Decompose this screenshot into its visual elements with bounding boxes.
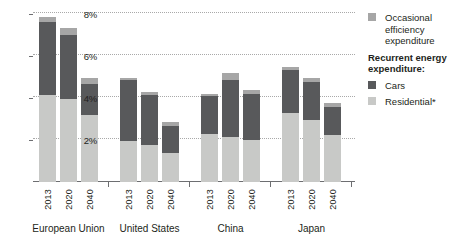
y-axis-tick-label: 6% (71, 51, 97, 62)
x-axis-year-label: 2013 (43, 189, 53, 210)
x-axis-year-label: 2040 (166, 189, 176, 210)
segment-cars (39, 22, 56, 94)
segment-residential (282, 113, 299, 182)
x-axis: 201320202040European Union201320202040Un… (33, 182, 355, 234)
segment-cars (120, 80, 137, 141)
x-axis-group-label: Japan (298, 223, 325, 234)
x-axis-year-label: 2020 (145, 189, 155, 210)
segment-residential (39, 95, 56, 182)
legend-item-residential: Residential* (368, 96, 453, 108)
segment-residential (222, 137, 239, 182)
x-axis-group-label: China (217, 223, 243, 234)
legend-group-title: Recurrent energy expenditure: (368, 52, 453, 75)
x-axis-year-label: 2013 (124, 189, 134, 210)
segment-cars (282, 70, 299, 113)
legend-swatch-occasional-icon (368, 13, 376, 21)
x-axis-year-label: 2020 (307, 189, 317, 210)
segment-occasional (60, 28, 77, 35)
segment-residential (303, 120, 320, 182)
segment-cars (60, 35, 77, 99)
x-axis-year-label: 2020 (226, 189, 236, 210)
x-axis-year-label: 2040 (247, 189, 257, 210)
y-axis-tick-mark (29, 98, 33, 99)
y-axis-tick-label: 2% (71, 135, 97, 146)
legend-swatch-cars-icon (368, 81, 376, 89)
stacked-bar-chart: 2%4%6%8% 201320202040European Union20132… (0, 0, 453, 234)
segment-residential (201, 134, 218, 182)
x-axis-group-label: European Union (32, 223, 104, 234)
x-axis-year-label: 2040 (85, 189, 95, 210)
segment-residential (324, 135, 341, 182)
x-axis-group-tick (351, 182, 352, 187)
bar-china-2013[interactable] (201, 94, 218, 182)
segment-cars (243, 94, 260, 140)
x-axis-year-label: 2013 (286, 189, 296, 210)
segment-residential (81, 115, 98, 182)
legend-label-cars: Cars (385, 80, 453, 92)
y-axis-tick-label: 8% (71, 9, 97, 20)
bar-united-states-2013[interactable] (120, 78, 137, 182)
x-axis-year-label: 2020 (64, 189, 74, 210)
segment-cars (303, 82, 320, 120)
bar-united-states-2040[interactable] (162, 122, 179, 182)
segment-residential (141, 145, 158, 182)
bar-japan-2040[interactable] (324, 103, 341, 182)
y-axis-tick-mark (29, 56, 33, 57)
legend-item-occasional: Occasional efficiency expenditure (368, 12, 453, 47)
bar-european-union-2013[interactable] (39, 17, 56, 182)
segment-occasional (222, 73, 239, 80)
x-axis-group-tick (189, 182, 190, 187)
legend: Occasional efficiency expenditure Recurr… (368, 12, 453, 113)
bar-china-2040[interactable] (243, 90, 260, 182)
x-axis-year-label: 2013 (205, 189, 215, 210)
bar-japan-2013[interactable] (282, 67, 299, 183)
segment-cars (201, 96, 218, 134)
segment-residential (162, 153, 179, 182)
bar-japan-2020[interactable] (303, 78, 320, 182)
legend-item-cars: Cars (368, 80, 453, 92)
y-axis-tick-mark (29, 140, 33, 141)
x-axis-year-label: 2040 (328, 189, 338, 210)
y-axis-tick-mark (29, 14, 33, 15)
x-axis-group-tick (270, 182, 271, 187)
bar-united-states-2020[interactable] (141, 92, 158, 182)
bar-china-2020[interactable] (222, 73, 239, 182)
segment-cars (324, 107, 341, 134)
segment-cars (141, 95, 158, 145)
legend-label-occasional: Occasional efficiency expenditure (385, 12, 453, 47)
y-axis-tick-label: 4% (71, 93, 97, 104)
x-axis-group-label: United States (119, 223, 179, 234)
legend-label-residential: Residential* (385, 96, 453, 108)
segment-residential (243, 140, 260, 182)
x-axis-group-tick (108, 182, 109, 187)
segment-residential (120, 141, 137, 182)
segment-cars (162, 126, 179, 152)
segment-cars (222, 80, 239, 137)
legend-swatch-residential-icon (368, 97, 376, 105)
